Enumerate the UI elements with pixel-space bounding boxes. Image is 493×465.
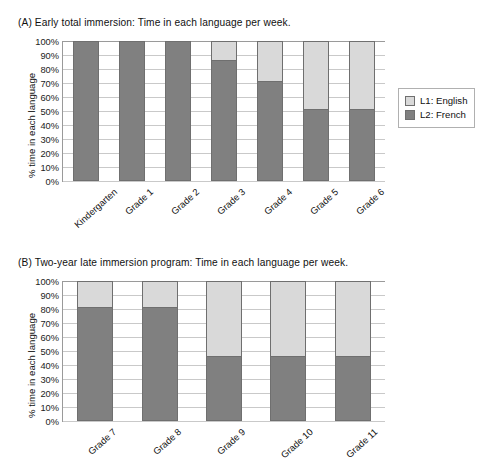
gridline: 0%	[63, 421, 385, 422]
y-tick-label: 30%	[40, 135, 59, 145]
y-tick-label: 90%	[40, 291, 59, 301]
y-tick-label: 0%	[46, 417, 59, 427]
chart-panel-b: (B) Two-year late immersion program: Tim…	[0, 240, 493, 465]
x-tick-label: Grade 10	[279, 426, 315, 460]
stacked-bar[interactable]	[77, 281, 113, 421]
panel-a-title: (A) Early total immersion: Time in each …	[18, 17, 291, 28]
y-tick-label: 20%	[40, 389, 59, 399]
x-tick-label: Grade 2	[169, 186, 202, 217]
legend-label-l2: L2: French	[420, 108, 466, 122]
y-tick-label: 40%	[40, 121, 59, 131]
bar-segment-l2-french[interactable]	[335, 357, 371, 421]
bar-segment-l2-french[interactable]	[349, 110, 375, 181]
x-tick-label: Grade 7	[86, 426, 119, 457]
x-tick-label: Grade 8	[151, 426, 184, 457]
x-tick-label: Grade 5	[308, 186, 341, 217]
bar-segment-l2-french[interactable]	[206, 357, 242, 421]
y-tick-label: 30%	[40, 375, 59, 385]
y-tick-label: 100%	[35, 277, 59, 287]
panel-a-legend: L1: English L2: French	[398, 88, 475, 128]
stacked-bar[interactable]	[257, 41, 283, 181]
legend-entry-l1: L1: English	[405, 94, 467, 108]
stacked-bar[interactable]	[270, 281, 306, 421]
y-tick-label: 0%	[46, 177, 59, 187]
bar-segment-l1-english[interactable]	[211, 41, 237, 61]
panel-b-y-axis-label: % time in each language	[26, 313, 37, 418]
bar-slot	[109, 41, 155, 181]
bar-segment-l2-french[interactable]	[77, 308, 113, 421]
legend-label-l1: L1: English	[420, 94, 467, 108]
stacked-bar[interactable]	[303, 41, 329, 181]
bar-segment-l2-french[interactable]	[119, 41, 145, 181]
bar-segment-l2-french[interactable]	[165, 41, 191, 181]
bar-segment-l2-french[interactable]	[303, 110, 329, 181]
bar-segment-l1-english[interactable]	[77, 281, 113, 308]
bar-segment-l1-english[interactable]	[257, 41, 283, 82]
panel-a-plot-area: 100%90%80%70%60%50%40%30%20%10%0%	[62, 41, 385, 182]
bar-segment-l1-english[interactable]	[142, 281, 178, 308]
bar-segment-l1-english[interactable]	[349, 41, 375, 110]
y-tick-label: 80%	[40, 65, 59, 75]
x-tick-label: Grade 3	[215, 186, 248, 217]
stacked-bar[interactable]	[165, 41, 191, 181]
stacked-bar[interactable]	[206, 281, 242, 421]
x-tick-label: Grade 6	[354, 186, 387, 217]
stacked-bar[interactable]	[211, 41, 237, 181]
bar-segment-l2-french[interactable]	[270, 357, 306, 421]
stacked-bar[interactable]	[119, 41, 145, 181]
bar-slot	[201, 41, 247, 181]
stacked-bar[interactable]	[142, 281, 178, 421]
panel-b-bars	[63, 281, 385, 421]
y-tick-label: 70%	[40, 79, 59, 89]
bar-slot	[192, 281, 256, 421]
legend-entry-l2: L2: French	[405, 108, 467, 122]
y-tick-label: 10%	[40, 163, 59, 173]
y-tick-label: 50%	[40, 347, 59, 357]
x-tick-label: Grade 9	[215, 426, 248, 457]
bar-segment-l1-english[interactable]	[335, 281, 371, 357]
legend-swatch-l2-icon	[405, 110, 415, 120]
bar-slot	[155, 41, 201, 181]
bar-slot	[63, 41, 109, 181]
bar-slot	[247, 41, 293, 181]
panel-a-y-axis-label: % time in each language	[26, 73, 37, 178]
y-tick-label: 10%	[40, 403, 59, 413]
gridline: 0%	[63, 181, 385, 182]
stacked-bar[interactable]	[73, 41, 99, 181]
bar-segment-l2-french[interactable]	[73, 41, 99, 181]
stacked-bar[interactable]	[349, 41, 375, 181]
x-tick-label: Grade 1	[123, 186, 156, 217]
bar-slot	[293, 41, 339, 181]
y-tick-label: 20%	[40, 149, 59, 159]
legend-swatch-l1-icon	[405, 96, 415, 106]
y-tick-label: 60%	[40, 93, 59, 103]
x-tick-label: Kindergarten	[72, 186, 119, 230]
bar-slot	[321, 281, 385, 421]
y-tick-label: 90%	[40, 51, 59, 61]
bar-segment-l2-french[interactable]	[142, 308, 178, 421]
bar-slot	[256, 281, 320, 421]
y-tick-label: 40%	[40, 361, 59, 371]
x-tick-label: Grade 4	[261, 186, 294, 217]
panel-a-bars	[63, 41, 385, 181]
bar-slot	[127, 281, 191, 421]
y-tick-label: 60%	[40, 333, 59, 343]
bar-segment-l2-french[interactable]	[257, 82, 283, 181]
bar-slot	[63, 281, 127, 421]
bar-segment-l1-english[interactable]	[303, 41, 329, 110]
y-tick-label: 50%	[40, 107, 59, 117]
bar-segment-l2-french[interactable]	[211, 61, 237, 181]
x-tick-label: Grade 11	[343, 426, 379, 460]
stacked-bar[interactable]	[335, 281, 371, 421]
y-tick-label: 80%	[40, 305, 59, 315]
panel-a-plot: 100%90%80%70%60%50%40%30%20%10%0%	[62, 41, 385, 182]
panel-b-plot: 100%90%80%70%60%50%40%30%20%10%0%	[62, 281, 385, 422]
y-tick-label: 70%	[40, 319, 59, 329]
chart-panel-a: (A) Early total immersion: Time in each …	[0, 0, 493, 240]
bar-segment-l1-english[interactable]	[206, 281, 242, 357]
panel-b-plot-area: 100%90%80%70%60%50%40%30%20%10%0%	[62, 281, 385, 422]
bar-slot	[339, 41, 385, 181]
panel-b-title: (B) Two-year late immersion program: Tim…	[18, 257, 348, 268]
bar-segment-l1-english[interactable]	[270, 281, 306, 357]
y-tick-label: 100%	[35, 37, 59, 47]
